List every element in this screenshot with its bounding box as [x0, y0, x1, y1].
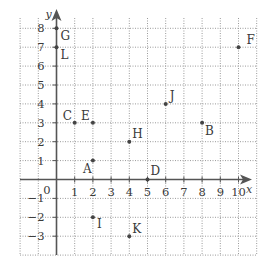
point-i — [91, 215, 95, 219]
point-g — [55, 26, 59, 30]
point-label-i: I — [97, 217, 102, 231]
origin-label: 0 — [43, 183, 50, 197]
x-tick-label: 6 — [162, 185, 169, 199]
point-d — [146, 178, 150, 182]
point-h — [127, 140, 131, 144]
point-k — [127, 234, 131, 238]
x-tick-label: 10 — [231, 185, 246, 199]
y-tick-label: 4 — [37, 97, 44, 111]
point-e — [91, 121, 95, 125]
y-axis-label: y — [45, 8, 53, 21]
point-label-f: F — [247, 33, 255, 47]
point-label-a: A — [82, 162, 92, 176]
point-label-j: J — [168, 89, 175, 103]
x-tick-label: 4 — [126, 185, 133, 199]
y-tick-label: 8 — [37, 21, 44, 35]
x-tick-label: 7 — [180, 185, 187, 199]
y-tick-label: −1 — [28, 191, 45, 205]
y-tick-label: 5 — [37, 78, 44, 92]
x-tick-label: 3 — [107, 185, 114, 199]
point-label-b: B — [205, 124, 214, 138]
point-label-l: L — [61, 48, 69, 62]
y-tick-label: −3 — [28, 229, 45, 243]
point-label-g: G — [61, 29, 71, 43]
point-f — [237, 45, 241, 49]
point-label-c: C — [63, 109, 72, 123]
point-l — [55, 45, 59, 49]
x-axis-label: x — [246, 183, 253, 196]
point-c — [73, 121, 77, 125]
y-tick-label: 6 — [37, 59, 44, 73]
y-tick-label: −2 — [28, 210, 45, 224]
y-tick-label: 1 — [37, 154, 44, 168]
points: ABCDEFGHIJKL — [55, 26, 255, 238]
x-tick-label: 5 — [144, 185, 151, 199]
point-label-k: K — [132, 222, 142, 236]
x-tick-label: 8 — [198, 185, 205, 199]
point-b — [200, 121, 204, 125]
coordinate-plane: 1234567891087654321−1−2−30xy ABCDEFGHIJK… — [0, 0, 271, 266]
x-tick-label: 2 — [89, 185, 96, 199]
point-label-e: E — [81, 109, 90, 123]
y-tick-label: 7 — [37, 40, 44, 54]
point-j — [164, 102, 168, 106]
y-tick-label: 2 — [37, 135, 44, 149]
point-label-h: H — [132, 127, 142, 141]
x-tick-label: 1 — [71, 185, 78, 199]
point-label-d: D — [151, 164, 161, 178]
y-tick-label: 3 — [37, 116, 44, 130]
x-tick-label: 9 — [217, 185, 224, 199]
